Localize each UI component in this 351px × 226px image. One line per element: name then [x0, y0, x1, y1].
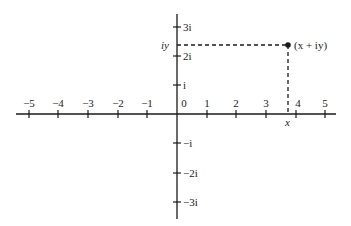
x-tick-label: 4 [295, 97, 301, 109]
x-tick-label: 5 [322, 97, 328, 109]
origin-label: 0 [181, 97, 187, 109]
y-tick-label: −i [183, 137, 192, 149]
point-marker [285, 42, 291, 48]
x-tick-label: −3 [82, 97, 94, 109]
x-tick-label: 3 [263, 97, 269, 109]
x-tick-label: 1 [204, 97, 210, 109]
y-tick-label: i [183, 79, 186, 91]
x-tick-label: −2 [112, 97, 124, 109]
x-tick-label: −1 [141, 97, 153, 109]
x-tick-label: 2 [233, 97, 239, 109]
y-tick-label: −2i [183, 167, 198, 179]
point-label: (x + iy) [294, 39, 327, 52]
y-tick-label: −3i [183, 196, 198, 208]
complex-plane-diagram: −5 −4 −3 −2 −1 0 1 2 3 4 5 3i 2i i −i −2… [0, 0, 351, 226]
x-tick-label: −4 [52, 97, 64, 109]
x-tick-label: −5 [23, 97, 35, 109]
iy-label: iy [161, 39, 169, 51]
x-axis-labels: −5 −4 −3 −2 −1 0 1 2 3 4 5 [23, 97, 328, 109]
y-tick-label: 3i [183, 21, 192, 33]
x-projection-label: x [284, 116, 290, 128]
y-tick-label: 2i [183, 50, 192, 62]
